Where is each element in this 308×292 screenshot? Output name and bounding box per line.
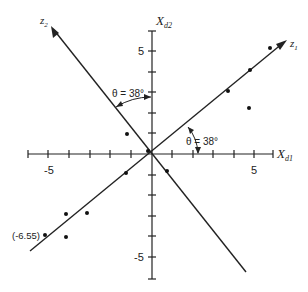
data-point xyxy=(124,171,128,175)
y-axis xyxy=(148,31,156,279)
data-point xyxy=(43,233,47,237)
data-point xyxy=(125,132,129,136)
angle-label-upper: θ = 38° xyxy=(112,88,144,99)
data-points xyxy=(43,46,272,239)
arc-arrow-icon xyxy=(195,147,201,154)
data-point xyxy=(146,149,150,153)
x-tick-label-5: 5 xyxy=(251,164,257,176)
z1-arrowhead-icon xyxy=(276,40,287,50)
y-tick-label-neg5: -5 xyxy=(134,251,144,263)
data-point xyxy=(268,46,272,50)
point-annotation: (-6.55) xyxy=(12,230,40,241)
arc-arrow-icon xyxy=(116,101,123,107)
data-point xyxy=(85,211,89,215)
z2-label: z2 xyxy=(39,14,48,29)
y-axis-label: Xd2 xyxy=(155,13,172,30)
x-axis-label: Xd1 xyxy=(276,146,293,163)
arc-arrow-icon xyxy=(144,94,151,100)
z2-axis xyxy=(51,26,246,272)
data-point xyxy=(248,68,252,72)
data-point xyxy=(247,106,251,110)
z2-arrowhead-icon xyxy=(51,26,59,38)
y-tick-label-5: 5 xyxy=(138,45,144,57)
principal-axes-diagram: Xd2 Xd1 -5 5 5 -5 z1 z2 θ = 38° θ = 38° … xyxy=(0,0,308,292)
data-point xyxy=(64,235,68,239)
x-tick-label-neg5: -5 xyxy=(44,164,54,176)
data-point xyxy=(64,212,68,216)
z1-axis xyxy=(30,40,287,251)
angle-label-lower: θ = 38° xyxy=(186,136,218,147)
arc-arrow-icon xyxy=(188,127,194,134)
data-point xyxy=(165,169,169,173)
data-point xyxy=(226,89,230,93)
z1-label: z1 xyxy=(289,37,298,52)
